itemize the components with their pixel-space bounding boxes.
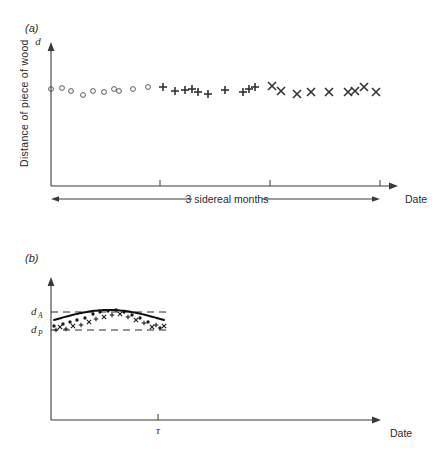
data-point-cross [118, 312, 122, 316]
data-point-plus [94, 317, 99, 322]
data-point-cross [87, 320, 91, 324]
data-point-plus [142, 321, 147, 326]
data-point-plus [171, 87, 179, 95]
apogee-level-symbol: d [31, 305, 37, 317]
data-point-plus [159, 83, 167, 91]
data-point-plus [204, 90, 212, 98]
panel-a-span-indicator: 3 sidereal months [51, 193, 380, 205]
data-point-circle [60, 86, 65, 91]
data-point-cross [150, 325, 154, 329]
data-point-plus [110, 313, 115, 318]
data-point-plus [154, 323, 159, 328]
data-point-cross [325, 88, 333, 96]
data-point-plus [181, 86, 189, 94]
data-point-circle [91, 89, 96, 94]
panel-b-x-axis-arrowhead [372, 417, 381, 424]
panel-a-y-axis-label: Distance of piece of wood [18, 39, 30, 167]
data-point-dot [138, 316, 141, 319]
data-point-dot [83, 316, 86, 319]
data-point-cross [102, 315, 106, 319]
data-point-cross [344, 88, 352, 96]
data-point-cross [293, 90, 301, 98]
data-point-dot [146, 320, 149, 323]
data-point-circle [146, 85, 151, 90]
panel-b-y-axis-arrowhead [48, 277, 55, 286]
panel-b-tau-label: τ [156, 424, 161, 436]
data-point-dot [61, 322, 64, 325]
data-point-dot [68, 320, 71, 323]
panel-a-data-points [49, 82, 380, 98]
data-point-cross [351, 87, 359, 95]
data-point-plus [79, 323, 84, 328]
data-point-cross [58, 325, 62, 329]
data-point-plus [221, 86, 229, 94]
data-point-circle [69, 89, 74, 94]
data-point-plus [126, 315, 131, 320]
data-point-dot [158, 326, 161, 329]
data-point-cross [71, 324, 75, 328]
data-point-cross [360, 83, 368, 91]
panel-b-y-axis [48, 277, 55, 420]
perigee-level-symbol: d [31, 323, 37, 335]
panel-a-y-axis [48, 42, 55, 186]
y-axis-arrowhead [48, 42, 55, 51]
data-point-cross [372, 88, 380, 96]
panel-a-tag: (a) [25, 22, 39, 34]
panel-a-x-ticks [160, 180, 380, 186]
data-point-plus [54, 328, 59, 333]
data-point-cross [268, 82, 276, 90]
panel-b-x-axis [51, 417, 381, 424]
panel-a-x-axis-label: Date [405, 193, 427, 205]
data-point-dot [91, 312, 94, 315]
perigee-level-subscript: P [37, 329, 43, 338]
panel-b-x-axis-label: Date [390, 427, 412, 439]
data-point-cross [162, 324, 166, 328]
data-point-dot [75, 318, 78, 321]
data-point-dot [52, 324, 55, 327]
panel-a-y-axis-symbol: d [35, 35, 41, 47]
apogee-level-label: d A [31, 305, 43, 320]
data-point-circle [102, 90, 107, 95]
x-axis-arrowhead [389, 183, 398, 190]
panel-a: (a) d Distance of piece of wood Date [18, 22, 427, 205]
data-point-plus [251, 83, 259, 91]
figure-container: (a) d Distance of piece of wood Date [0, 0, 439, 460]
data-point-circle [112, 87, 117, 92]
apogee-level-subscript: A [37, 311, 43, 320]
data-point-circle [131, 87, 136, 92]
two-panel-scientific-figure: (a) d Distance of piece of wood Date [0, 0, 439, 460]
data-point-cross [134, 318, 138, 322]
data-point-circle [81, 93, 86, 98]
data-point-cross [277, 87, 285, 95]
panel-a-x-axis [51, 183, 398, 190]
data-point-dot [130, 313, 133, 316]
panel-b: (b) τ Date d A d [25, 252, 412, 439]
data-point-cross [307, 88, 315, 96]
data-point-plus [64, 327, 69, 332]
panel-b-tag: (b) [25, 252, 39, 264]
panel-a-span-label: 3 sidereal months [186, 193, 269, 205]
perigee-level-label: d P [31, 323, 43, 338]
data-point-circle [117, 89, 122, 94]
